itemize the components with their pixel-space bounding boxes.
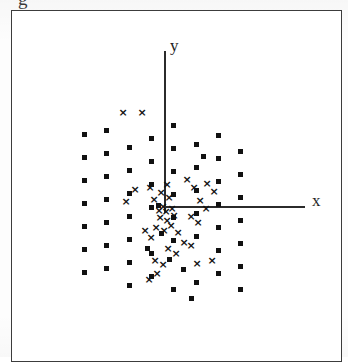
- scatter-marker-square: [181, 267, 186, 272]
- scatter-marker-cross: ×: [118, 107, 129, 118]
- scatter-marker-cross: ×: [152, 268, 163, 279]
- scatter-marker-cross: ×: [162, 215, 173, 226]
- scatter-marker-square: [82, 178, 87, 183]
- scatter-marker-cross: ×: [145, 182, 156, 193]
- scatter-marker-square: [149, 159, 154, 164]
- scatter-marker-square: [145, 246, 150, 251]
- y-axis-line: [164, 51, 166, 213]
- scatter-marker-cross: ×: [163, 243, 174, 254]
- scatter-marker-cross: ×: [201, 203, 212, 214]
- scatter-marker-square: [149, 251, 154, 256]
- scatter-marker-cross: ×: [209, 186, 220, 197]
- scatter-marker-cross: ×: [146, 232, 157, 243]
- scatter-marker-square: [171, 123, 176, 128]
- scatter-marker-square: [238, 241, 243, 246]
- scatter-marker-square: [194, 142, 199, 147]
- scatter-marker-cross: ×: [150, 255, 161, 266]
- scatter-marker-square: [201, 154, 206, 159]
- scatter-marker-square: [238, 287, 243, 292]
- scatter-marker-square: [82, 201, 87, 206]
- scatter-marker-square: [238, 195, 243, 200]
- scatter-marker-square: [194, 165, 199, 170]
- scatter-marker-square: [104, 266, 109, 271]
- scatter-marker-cross: ×: [202, 178, 213, 189]
- scatter-marker-square: [127, 168, 132, 173]
- scatter-marker-cross: ×: [159, 225, 170, 236]
- scatter-marker-square: [104, 197, 109, 202]
- scatter-marker-square: [167, 257, 172, 262]
- scatter-marker-cross: ×: [182, 174, 193, 185]
- scatter-marker-square: [171, 192, 176, 197]
- scatter-marker-square: [82, 224, 87, 229]
- plot-frame: y x ××××××××××××××××××××××××××××××××××××…: [11, 10, 342, 362]
- scatter-marker-square: [238, 149, 243, 154]
- scatter-marker-square: [104, 151, 109, 156]
- scatter-marker-square: [149, 274, 154, 279]
- scatter-marker-square: [159, 231, 164, 236]
- scatter-marker-square: [216, 271, 221, 276]
- scatter-marker-cross: ×: [166, 220, 177, 231]
- caption-clip-region: g: [0, 0, 348, 10]
- scatter-marker-square: [171, 146, 176, 151]
- y-axis-label: y: [170, 37, 179, 54]
- scatter-marker-cross: ×: [192, 258, 203, 269]
- scatter-marker-square: [104, 174, 109, 179]
- scatter-marker-cross: ×: [155, 212, 166, 223]
- scatter-marker-square: [216, 156, 221, 161]
- scatter-marker-square: [127, 191, 132, 196]
- scatter-marker-cross: ×: [130, 184, 141, 195]
- scatter-marker-cross: ×: [149, 194, 160, 205]
- scatter-marker-square: [104, 128, 109, 133]
- scatter-marker-square: [194, 188, 199, 193]
- scatter-marker-square: [149, 205, 154, 210]
- scatter-marker-square: [216, 225, 221, 230]
- scatter-marker-square: [216, 248, 221, 253]
- scatter-marker-square: [149, 182, 154, 187]
- scatter-marker-square: [194, 211, 199, 216]
- scatter-marker-square: [156, 203, 161, 208]
- scatter-marker-square: [171, 287, 176, 292]
- x-axis-line: [164, 206, 305, 208]
- scatter-marker-cross: ×: [186, 211, 197, 222]
- scatter-marker-square: [127, 237, 132, 242]
- scatter-marker-square: [171, 215, 176, 220]
- scatter-marker-cross: ×: [173, 227, 184, 238]
- scatter-marker-cross: ×: [151, 222, 162, 233]
- scatter-marker-square: [127, 283, 132, 288]
- scatter-marker-cross: ×: [207, 255, 218, 266]
- scatter-marker-cross: ×: [121, 196, 132, 207]
- scatter-marker-square: [238, 218, 243, 223]
- scatter-marker-square: [238, 172, 243, 177]
- scatter-marker-square: [189, 296, 194, 301]
- scatter-marker-cross: ×: [154, 205, 165, 216]
- scatter-marker-cross: ×: [179, 237, 190, 248]
- scatter-marker-cross: ×: [167, 203, 178, 214]
- scatter-marker-square: [104, 220, 109, 225]
- x-axis-label: x: [312, 192, 321, 209]
- scatter-marker-square: [238, 264, 243, 269]
- scatter-marker-square: [127, 214, 132, 219]
- scatter-marker-square: [104, 243, 109, 248]
- plot-area: y x ××××××××××××××××××××××××××××××××××××…: [12, 11, 341, 361]
- scatter-marker-cross: ×: [158, 259, 169, 270]
- scatter-marker-square: [82, 270, 87, 275]
- scatter-marker-square: [82, 247, 87, 252]
- scatter-marker-square: [149, 136, 154, 141]
- scatter-marker-cross: ×: [195, 195, 206, 206]
- scatter-marker-square: [171, 238, 176, 243]
- scatter-marker-square: [82, 132, 87, 137]
- scatter-marker-square: [216, 179, 221, 184]
- figure-caption-partial: g: [18, 0, 28, 10]
- scatter-marker-cross: ×: [144, 274, 155, 285]
- scatter-marker-square: [127, 145, 132, 150]
- scatter-marker-square: [82, 155, 87, 160]
- scatter-marker-cross: ×: [189, 182, 200, 193]
- scatter-marker-cross: ×: [186, 240, 197, 251]
- scatter-marker-square: [194, 280, 199, 285]
- scatter-marker-cross: ×: [169, 210, 180, 221]
- scatter-marker-cross: ×: [137, 107, 148, 118]
- scatter-marker-square: [127, 260, 132, 265]
- scatter-marker-square: [194, 234, 199, 239]
- scatter-marker-cross: ×: [140, 225, 151, 236]
